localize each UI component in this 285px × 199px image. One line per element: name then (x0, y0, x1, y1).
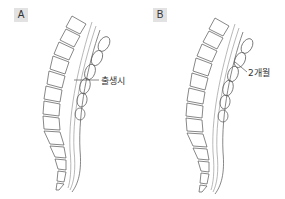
caption-label: 출생시 (101, 74, 125, 87)
caption-label: 2개월 (248, 66, 270, 79)
panel-b: B 2개월 (141, 0, 283, 199)
panel-tag: B (153, 8, 167, 22)
spine-diagram-2-months (141, 0, 283, 199)
spine-diagram-birth (0, 0, 142, 199)
panel-tag: A (14, 8, 28, 22)
panel-a: A 출생시 (0, 0, 142, 199)
